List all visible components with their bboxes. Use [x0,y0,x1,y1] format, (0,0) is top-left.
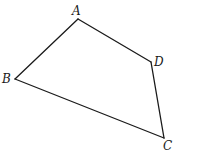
edge-ad [78,19,151,62]
vertex-label-b: B [1,72,11,86]
edge-dc [151,62,164,138]
vertex-label-d: D [153,55,164,69]
vertex-labels: A D C B [1,4,172,152]
vertex-label-a: A [71,4,81,18]
edge-ba [15,19,78,79]
quadrilateral-diagram: A D C B [0,0,213,152]
edge-cb [15,79,164,138]
vertex-label-c: C [163,139,172,152]
edges [15,19,164,138]
